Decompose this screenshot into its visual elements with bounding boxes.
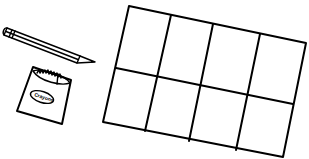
grid-column-divider — [236, 34, 260, 150]
illustration-canvas: Crayons — [0, 0, 309, 159]
grid-row-divider — [116, 68, 293, 104]
pencil-icon — [3, 28, 95, 63]
grid-column-divider — [145, 15, 171, 131]
grid-column-divider — [189, 24, 213, 141]
grid-outline — [103, 6, 306, 157]
grid-2x4 — [103, 6, 306, 157]
crayon-box-icon: Crayons — [17, 67, 71, 124]
